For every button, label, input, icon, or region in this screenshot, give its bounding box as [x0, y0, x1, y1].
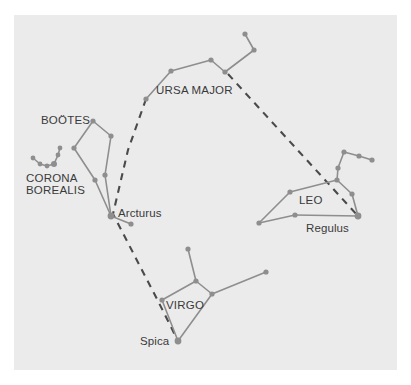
- star-dot: [349, 191, 354, 196]
- constellation-line: [188, 249, 196, 281]
- constellation-line: [196, 281, 212, 294]
- constellation-line: [259, 192, 290, 223]
- star-dot: [334, 177, 339, 182]
- constellation-label-corona-borealis: CORONA: [26, 172, 78, 184]
- star-label-arcturus: Arcturus: [118, 207, 162, 219]
- constellation-line: [93, 121, 111, 136]
- constellation-label-virgo: VIRGO: [166, 299, 204, 311]
- star-dot: [128, 221, 133, 226]
- star-dot: [56, 153, 61, 158]
- constellation-line: [212, 272, 266, 294]
- constellation-line: [337, 180, 352, 194]
- constellation-line: [171, 60, 211, 71]
- star-dot: [108, 213, 115, 220]
- star-dot: [209, 291, 214, 296]
- star-dot: [222, 69, 227, 74]
- constellation-line: [211, 60, 225, 72]
- star-dot: [45, 164, 50, 169]
- star-label-spica: Spica: [140, 335, 170, 347]
- star-dot: [51, 161, 57, 167]
- star-dot: [356, 153, 361, 158]
- constellation-line: [259, 215, 295, 223]
- star-dot: [242, 31, 247, 36]
- star-dot: [90, 118, 95, 123]
- star-dot: [38, 162, 43, 167]
- star-dot: [71, 145, 76, 150]
- star-dot: [292, 212, 297, 217]
- star-label-regulus: Regulus: [306, 222, 349, 234]
- star-dot: [58, 146, 63, 151]
- star-dot: [185, 246, 190, 251]
- star-dot: [102, 172, 107, 177]
- star-dot: [341, 149, 346, 154]
- star-dot: [256, 220, 261, 225]
- constellation-line: [162, 281, 196, 300]
- star-dot: [193, 278, 198, 283]
- star-dot: [175, 338, 182, 345]
- constellation-line: [225, 50, 254, 72]
- constellation-line: [295, 215, 358, 216]
- star-dot: [159, 297, 164, 302]
- star-dot: [31, 156, 36, 161]
- star-dot: [108, 133, 113, 138]
- constellation-line: [290, 180, 337, 192]
- star-dot: [369, 157, 374, 162]
- star-dot: [251, 47, 256, 52]
- star-dot: [92, 177, 97, 182]
- constellation-map: URSA MAJORBOÖTESCORONABOREALISLEOVIRGOAr…: [0, 0, 411, 385]
- constellation-label-line2: BOREALIS: [26, 184, 85, 196]
- star-dot: [355, 213, 362, 220]
- star-dot: [143, 96, 148, 101]
- constellation-line: [245, 34, 254, 50]
- constellation-label-leo: LEO: [299, 194, 323, 206]
- constellation-line: [105, 136, 111, 175]
- constellation-label-ursa-major: URSA MAJOR: [156, 84, 233, 96]
- star-dot: [168, 68, 173, 73]
- guide-line-ursa-major-to-regulus: [228, 74, 358, 216]
- star-chart-figure: URSA MAJORBOÖTESCORONABOREALISLEOVIRGOAr…: [0, 0, 411, 385]
- star-dot: [287, 189, 292, 194]
- star-dot: [263, 269, 268, 274]
- constellation-label-boötes: BOÖTES: [41, 114, 90, 126]
- star-dot: [208, 57, 213, 62]
- star-dot: [335, 165, 340, 170]
